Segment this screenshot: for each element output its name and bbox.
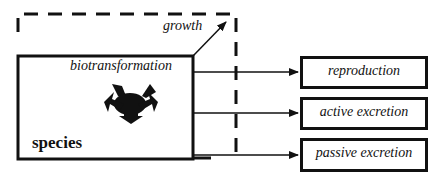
- output-label: reproduction: [303, 63, 425, 79]
- biotransformation-icon: [104, 84, 158, 124]
- output-box-active-excretion: active excretion: [300, 97, 428, 130]
- growth-label: growth: [163, 18, 202, 34]
- output-label: passive excretion: [303, 145, 425, 161]
- diagram-canvas: growth biotransformation species reprodu…: [0, 0, 443, 184]
- biotransformation-label: biotransformation: [70, 58, 172, 74]
- output-box-reproduction: reproduction: [300, 56, 428, 89]
- output-box-passive-excretion: passive excretion: [300, 138, 428, 172]
- species-label: species: [32, 133, 82, 153]
- output-label: active excretion: [303, 104, 425, 120]
